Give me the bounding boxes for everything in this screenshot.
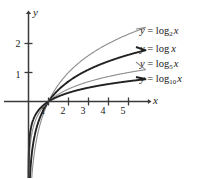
curve-label-log2: y = log2x xyxy=(140,26,178,38)
curve-label-log10-lhs: y xyxy=(140,73,145,84)
curve-label-log-eq: = xyxy=(147,43,153,54)
x-tick-label-1: 1 xyxy=(37,106,49,116)
curve-label-log-arg: x xyxy=(171,43,176,54)
curve-log10 xyxy=(29,79,146,178)
curve-label-log: y = logx xyxy=(140,44,176,55)
y-axis-arrow xyxy=(26,11,31,15)
y-tick-label-1: 1 xyxy=(12,70,24,80)
curve-label-log5-arg: x xyxy=(174,58,179,69)
x-axis-label: x xyxy=(153,95,158,106)
curve-label-log-lhs: y xyxy=(140,43,145,54)
x-tick-label-2: 2 xyxy=(57,106,69,116)
x-tick-label-3: 3 xyxy=(77,106,89,116)
curve-label-log2-arg: x xyxy=(174,25,179,36)
x-axis-arrow xyxy=(148,99,152,104)
curve-label-log5-base: 5 xyxy=(169,63,173,71)
y-tick-label-2: 2 xyxy=(12,39,24,49)
curve-label-log10-arg: x xyxy=(177,73,182,84)
curve-label-log5: y = log5x xyxy=(140,59,178,71)
curve-label-log2-lhs: y xyxy=(140,25,145,36)
curve-label-log5-fn: log xyxy=(156,58,169,69)
x-tick-label-5: 5 xyxy=(117,106,129,116)
curve-label-log5-eq: = xyxy=(147,58,153,69)
log-functions-figure: y x 2 1 1 2 3 4 5 y = log2x y = logx y =… xyxy=(0,0,202,178)
y-axis-label: y xyxy=(33,7,38,18)
curve-label-log2-base: 2 xyxy=(169,30,173,38)
curve-label-log-fn: log xyxy=(156,43,169,54)
curve-label-log10-eq: = xyxy=(147,73,153,84)
curve-label-log10-fn: log xyxy=(156,73,169,84)
curve-log5 xyxy=(29,70,146,178)
curve-label-log2-fn: log xyxy=(156,25,169,36)
x-tick-label-4: 4 xyxy=(97,106,109,116)
curve-label-log5-lhs: y xyxy=(140,58,145,69)
curve-label-log10: y = log10x xyxy=(140,74,182,86)
curve-label-log2-eq: = xyxy=(147,25,153,36)
axes-group xyxy=(4,11,152,179)
curve-label-log10-base: 10 xyxy=(169,78,176,86)
